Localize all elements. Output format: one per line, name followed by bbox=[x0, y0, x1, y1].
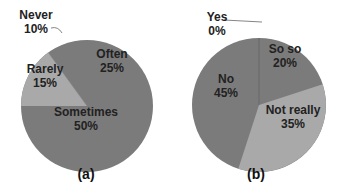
label-sometimes: Sometimes50% bbox=[54, 105, 118, 133]
label-not-really: Not really35% bbox=[266, 103, 321, 131]
pie-b bbox=[192, 20, 326, 172]
pie-a bbox=[21, 28, 153, 172]
label-rarely: Rarely15% bbox=[27, 62, 64, 90]
caption-b: (b) bbox=[247, 166, 265, 182]
label-so-so: So so20% bbox=[269, 42, 302, 70]
figure: Never10% Rarely15% Often25% Sometimes50%… bbox=[0, 0, 344, 190]
leader-line-yes bbox=[224, 20, 262, 22]
label-often: Often25% bbox=[96, 47, 127, 75]
label-yes: Yes0% bbox=[207, 10, 228, 38]
caption-a: (a) bbox=[77, 166, 94, 182]
label-no: No45% bbox=[214, 72, 238, 100]
label-never: Never10% bbox=[19, 8, 52, 36]
